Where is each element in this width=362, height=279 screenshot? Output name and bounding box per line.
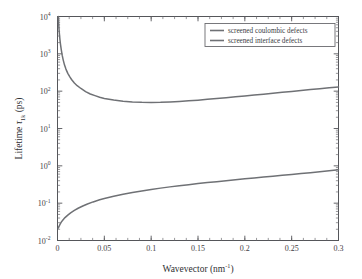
lifetime-vs-wavevector-chart: 10-210-110010110210310400.050.10.150.20.… bbox=[0, 0, 362, 279]
y-tick-label: 100 bbox=[40, 160, 51, 170]
y-tick-label: 102 bbox=[40, 86, 51, 96]
x-tick-label: 0.15 bbox=[191, 244, 205, 253]
x-tick-label: 0.05 bbox=[97, 244, 111, 253]
y-tick-label: 104 bbox=[40, 11, 51, 21]
x-axis-title: Wavevector (nm-1) bbox=[162, 262, 233, 275]
y-tick-label: 10-2 bbox=[38, 235, 51, 245]
legend-label-interface: screened interface defects bbox=[228, 37, 302, 45]
y-tick-label: 101 bbox=[40, 123, 51, 133]
x-tick-label: 0.3 bbox=[334, 244, 344, 253]
x-tick-label: 0 bbox=[56, 244, 60, 253]
x-tick-label: 0.25 bbox=[285, 244, 299, 253]
series-line-interface: screened interface defects bbox=[58, 170, 338, 228]
y-tick-label: 103 bbox=[40, 48, 51, 58]
y-tick-label: 10-1 bbox=[38, 198, 51, 208]
y-axis-title: Lifetime τ1k (ps) bbox=[14, 98, 26, 160]
x-tick-label: 0.1 bbox=[146, 244, 156, 253]
x-tick-label: 0.2 bbox=[240, 244, 250, 253]
figure-container: 10-210-110010110210310400.050.10.150.20.… bbox=[0, 0, 362, 279]
legend-label-coulombic: screened coulombic defects bbox=[228, 27, 308, 35]
plot-frame bbox=[58, 17, 339, 241]
